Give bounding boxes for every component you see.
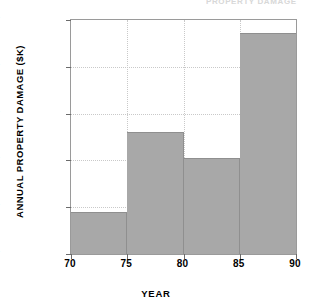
- bar-top-edge: [184, 158, 239, 159]
- plot-area: [70, 19, 297, 255]
- bar: [127, 132, 183, 254]
- x-axis-tick-label: 75: [111, 258, 141, 269]
- bar: [240, 33, 296, 254]
- y-axis-tick: [66, 67, 71, 68]
- y-axis-tick: [66, 20, 71, 21]
- y-axis-tick: [66, 160, 71, 161]
- y-axis-title: ANNUAL PROPERTY DAMAGE ($K): [14, 12, 25, 252]
- x-axis-tick-label: 80: [168, 258, 198, 269]
- bar-top-edge: [71, 212, 126, 213]
- x-axis-tick-label: 90: [280, 258, 310, 269]
- x-axis-tick-label: 85: [224, 258, 254, 269]
- x-axis-tick-label: 70: [55, 258, 85, 269]
- bar-series: [71, 20, 296, 254]
- clipped-header-text: PROPERTY DAMAGE: [206, 0, 310, 6]
- bar-top-edge: [127, 132, 182, 133]
- y-axis-tick: [66, 207, 71, 208]
- bar-top-edge: [240, 33, 296, 34]
- bar: [184, 158, 240, 254]
- chart-figure: PROPERTY DAMAGE ANNUAL PROPERTY DAMAGE (…: [0, 0, 312, 306]
- bar: [71, 212, 127, 254]
- x-axis-title: YEAR: [0, 288, 312, 299]
- y-axis-tick: [66, 114, 71, 115]
